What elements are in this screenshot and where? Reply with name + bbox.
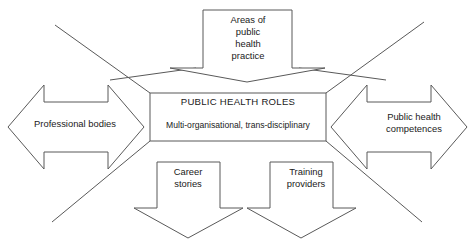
arrow-shape-top[interactable] xyxy=(170,10,325,82)
ray-bottom-left xyxy=(52,141,150,222)
arrow-shape-right[interactable] xyxy=(331,85,467,169)
ray-top-right xyxy=(326,22,424,93)
arrow-shape-bottom-right[interactable] xyxy=(247,162,356,238)
diagram-vector-layer xyxy=(0,0,475,240)
arrow-shape-bottom-left[interactable] xyxy=(134,162,243,238)
center-box[interactable] xyxy=(150,93,326,141)
diagram-canvas: PUBLIC HEALTH ROLES Multi-organisational… xyxy=(0,0,475,240)
ray-top-left xyxy=(55,25,150,93)
arrow-shape-left[interactable] xyxy=(8,85,144,169)
